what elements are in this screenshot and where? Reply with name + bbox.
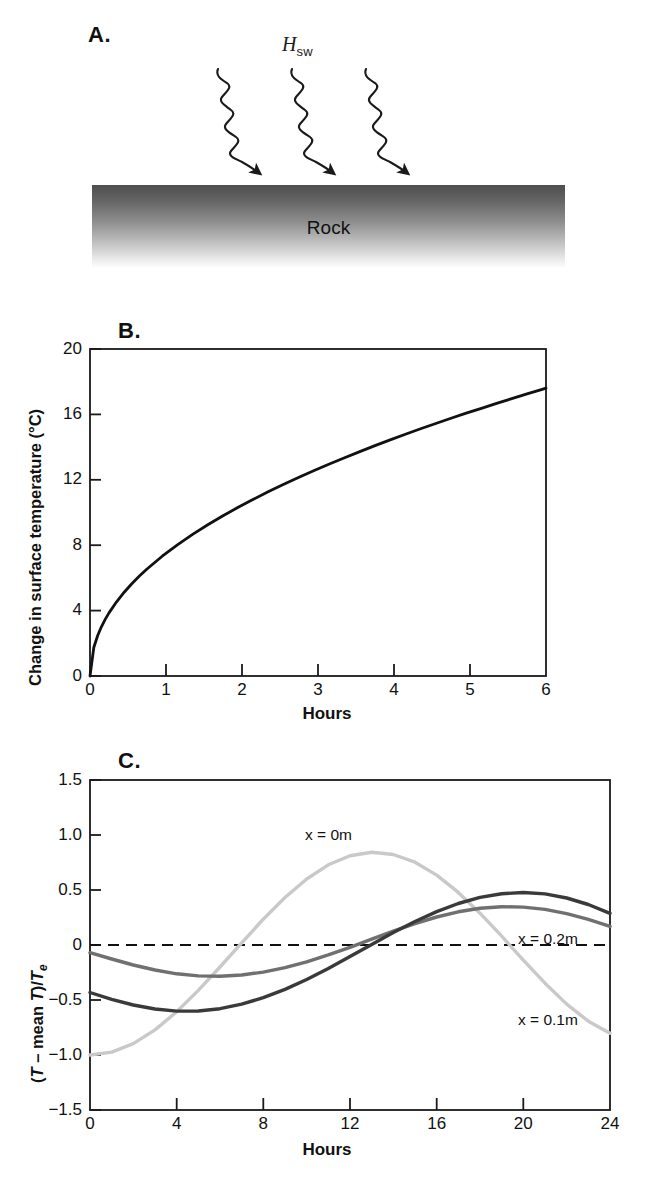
panel-c-y-axis-title: (T – mean T)/Te: [28, 964, 50, 1083]
panel-c-annotation-x0: x = 0m: [305, 826, 352, 844]
panel-b-xtick-6: 6: [526, 680, 566, 700]
flux-subscript: sw: [296, 44, 313, 59]
panel-c-ytick-1p0: 1.0: [18, 825, 82, 845]
panel-b-xtick-5: 5: [450, 680, 490, 700]
panel-c-curve-x01: [90, 893, 610, 1012]
panel-c: 1.5 1.0 0.5 0 −0.5 −1.0 −1.5 0 4 8 12 16…: [0, 735, 654, 1194]
panel-c-ytick-0p5: 0.5: [18, 880, 82, 900]
panel-c-x-axis-title: Hours: [0, 1140, 654, 1160]
panel-c-annotation-x01: x = 0.1m: [518, 1011, 578, 1029]
panel-b-xtick-4: 4: [374, 680, 414, 700]
panel-b-frame: [90, 349, 546, 676]
panel-b: 20 16 12 8 4 0 0 1 2 3 4 5 6 Hours Chang…: [0, 300, 654, 740]
panel-b-curve-surface-temperature: [90, 388, 546, 676]
panel-b-y-ticks: [90, 349, 101, 676]
panel-b-xtick-0: 0: [70, 680, 110, 700]
panel-b-letter: B.: [118, 318, 141, 344]
panel-b-xtick-3: 3: [298, 680, 338, 700]
panel-b-xtick-2: 2: [222, 680, 262, 700]
panel-c-xtick-16: 16: [417, 1114, 457, 1134]
panel-b-x-axis-title: Hours: [0, 704, 654, 724]
panel-b-x-ticks: [166, 664, 470, 676]
panel-b-plot: [0, 300, 654, 740]
rock-label: Rock: [92, 217, 565, 239]
panel-a: A. Hsw Rock: [0, 0, 654, 300]
panel-b-y-axis-title: Change in surface temperature (°C): [26, 409, 45, 686]
panel-c-ytick-0: 0: [18, 935, 82, 955]
wavy-arrow-2: [291, 69, 333, 173]
panel-c-ytick-1p5: 1.5: [18, 770, 82, 790]
flux-symbol: H: [282, 33, 296, 55]
figure-root: A. Hsw Rock: [0, 0, 654, 1194]
panel-c-x-ticks: [177, 1098, 524, 1110]
wavy-arrow-3: [365, 69, 407, 173]
rock-block: Rock: [92, 185, 565, 267]
panel-c-xtick-8: 8: [243, 1114, 283, 1134]
panel-b-ytick-20: 20: [34, 339, 82, 359]
panel-c-xtick-24: 24: [590, 1114, 630, 1134]
panel-c-xtick-20: 20: [503, 1114, 543, 1134]
panel-c-xtick-4: 4: [157, 1114, 197, 1134]
panel-c-letter: C.: [118, 748, 141, 774]
panel-c-annotation-x02: x = 0.2m: [518, 930, 578, 948]
shortwave-flux-label: Hsw: [282, 33, 313, 59]
panel-b-xtick-1: 1: [146, 680, 186, 700]
panel-c-xtick-0: 0: [70, 1114, 110, 1134]
panel-c-xtick-12: 12: [330, 1114, 370, 1134]
wavy-arrow-1: [217, 69, 259, 173]
panel-a-letter: A.: [88, 22, 111, 48]
